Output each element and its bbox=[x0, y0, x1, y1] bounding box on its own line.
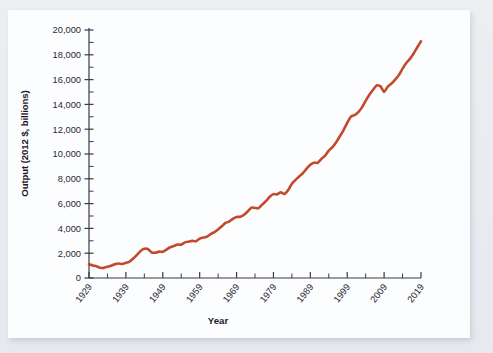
y-axis-tick-label: 8,000 bbox=[58, 174, 81, 184]
data-series-group bbox=[89, 41, 421, 268]
x-axis-tick-label: 2019 bbox=[405, 282, 426, 304]
y-axis-tick-label: 12,000 bbox=[53, 125, 81, 135]
page-root: 02,0004,0006,0008,00010,00012,00014,0001… bbox=[0, 0, 493, 353]
y-axis-tick-label: 0 bbox=[76, 273, 81, 283]
axes-group: 02,0004,0006,0008,00010,00012,00014,0001… bbox=[53, 25, 427, 304]
y-axis-tick-label: 6,000 bbox=[58, 199, 81, 209]
y-axis-tick-label: 16,000 bbox=[53, 75, 81, 85]
y-axis-tick-label: 14,000 bbox=[53, 100, 81, 110]
y-axis-tick-label: 10,000 bbox=[53, 149, 81, 159]
x-axis-tick-label: 1999 bbox=[332, 282, 353, 304]
x-axis-tick-label: 1959 bbox=[184, 282, 205, 304]
figure-card: 02,0004,0006,0008,00010,00012,00014,0001… bbox=[8, 10, 470, 338]
chart-figure: 02,0004,0006,0008,00010,00012,00014,0001… bbox=[8, 10, 470, 338]
x-axis-tick-label: 1949 bbox=[147, 282, 168, 304]
y-axis-tick-label: 18,000 bbox=[53, 50, 81, 60]
y-axis-tick-label: 4,000 bbox=[58, 224, 81, 234]
x-axis-title: Year bbox=[8, 315, 428, 326]
y-axis-tick-label: 20,000 bbox=[53, 25, 81, 35]
data-line-real-gdp bbox=[89, 41, 421, 268]
x-axis-tick-label: 1939 bbox=[110, 282, 131, 304]
x-axis-tick-label: 1929 bbox=[73, 282, 94, 304]
line-chart: 02,0004,0006,0008,00010,00012,00014,0001… bbox=[8, 10, 470, 338]
x-axis-tick-label: 1979 bbox=[258, 282, 279, 304]
x-axis-tick-label: 1969 bbox=[221, 282, 242, 304]
x-axis-tick-label: 1989 bbox=[295, 282, 316, 304]
y-axis-tick-label: 2,000 bbox=[58, 249, 81, 259]
y-axis-title: Output (2012 $, billions) bbox=[19, 69, 30, 219]
x-axis-tick-label: 2009 bbox=[369, 282, 390, 304]
